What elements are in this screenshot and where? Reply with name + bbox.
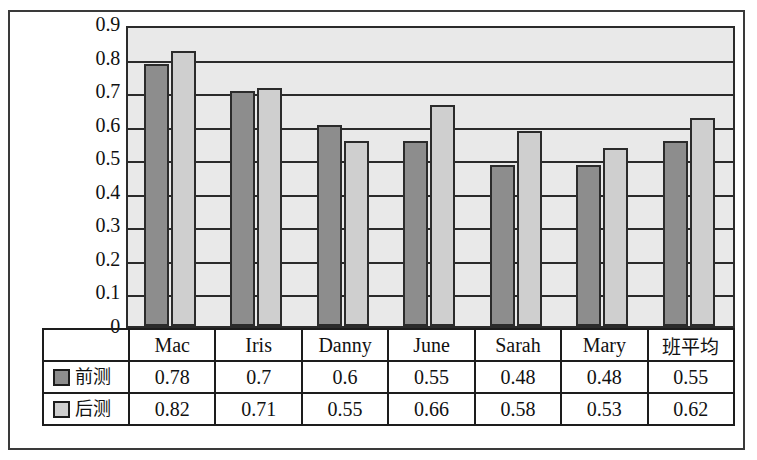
table-row: 后测0.820.710.550.660.580.530.62 [43,393,734,425]
y-axis-tick-label: 0.2 [96,248,120,271]
category-header-cell: Iris [215,329,301,361]
category-header-cell: Mary [561,329,647,361]
bar-group [647,28,733,326]
bar-group [128,28,214,326]
category-header-cell: June [388,329,474,361]
bar-group [474,28,560,326]
legend-label: 后测 [75,400,111,418]
category-header-cell: Danny [302,329,388,361]
table-header-row: MacIrisDannyJuneSarahMary班平均 [43,329,734,361]
data-cell: 0.78 [129,361,215,393]
data-cell: 0.62 [648,393,734,425]
bar-post [430,105,455,326]
data-cell: 0.53 [561,393,647,425]
legend-cell: 后测 [43,393,129,425]
data-table: MacIrisDannyJuneSarahMary班平均前测0.780.70.6… [42,328,735,426]
legend-swatch-icon [53,401,70,418]
data-cell: 0.55 [648,361,734,393]
data-cell: 0.55 [388,361,474,393]
bar-pre [144,64,169,326]
y-axis-tick-label: 0.9 [96,13,120,36]
data-cell: 0.58 [475,393,561,425]
y-axis-tick-label: 0.3 [96,214,120,237]
plot-wrapper [126,26,735,328]
y-axis-tick-label: 0.4 [96,181,120,204]
category-header-cell: Sarah [475,329,561,361]
y-axis-tick-label: 0.8 [96,47,120,70]
bar-post [690,118,715,326]
bar-post [257,88,282,326]
y-axis-tick-label: 0.7 [96,80,120,103]
bar-pre [317,125,342,326]
data-cell: 0.48 [475,361,561,393]
data-cell: 0.82 [129,393,215,425]
y-axis-tick-label: 0.1 [96,282,120,305]
category-header-cell: 班平均 [648,329,734,361]
bar-post [517,131,542,326]
y-axis-tick-label: 0.5 [96,147,120,170]
data-cell: 0.6 [302,361,388,393]
category-header-cell: Mac [129,329,215,361]
plot-area [126,26,735,328]
bar-post [603,148,628,326]
bar-post [344,141,369,326]
bar-group [560,28,646,326]
bar-pre [490,165,515,326]
data-cell: 0.48 [561,361,647,393]
data-cell: 0.71 [215,393,301,425]
table-corner-cell [43,329,129,361]
y-axis-tick-label: 0.6 [96,114,120,137]
bar-pre [230,91,255,326]
legend-label: 前测 [75,368,111,386]
bar-post [171,51,196,326]
y-axis: 0.90.80.70.60.50.40.30.20.10 [40,26,126,328]
bar-pre [576,165,601,326]
bar-pre [663,141,688,326]
data-cell: 0.7 [215,361,301,393]
legend-swatch-icon [53,369,70,386]
legend-cell: 前测 [43,361,129,393]
bar-pre [403,141,428,326]
bar-group [387,28,473,326]
table-row: 前测0.780.70.60.550.480.480.55 [43,361,734,393]
figure-frame: 0.90.80.70.60.50.40.30.20.10 MacIrisDann… [8,10,745,450]
bar-group [214,28,300,326]
data-cell: 0.66 [388,393,474,425]
bar-group [301,28,387,326]
bar-groups [128,28,733,326]
data-cell: 0.55 [302,393,388,425]
